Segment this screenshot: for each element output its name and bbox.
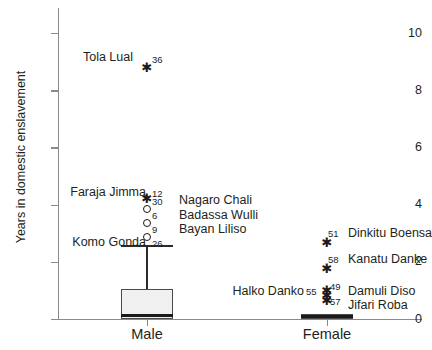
outlier-marker-30[interactable]: ✱ [142, 193, 153, 204]
outlier-marker-36[interactable]: ✱ [142, 62, 153, 73]
outlier-name-damuli-diso: Damuli Diso [348, 285, 415, 298]
outlier-name-bayan-liliso: Bayan Liliso [179, 223, 246, 236]
outlier-marker-9[interactable] [143, 219, 151, 227]
outlier-id-26: 26 [152, 239, 163, 249]
x-axis-line [58, 319, 422, 320]
y-tick-6 [51, 147, 58, 148]
outlier-id-55: 55 [306, 287, 317, 297]
outlier-id-51: 51 [328, 229, 339, 239]
y-tick-0 [51, 319, 58, 320]
y-tick-label-8: 8 [374, 84, 422, 97]
outlier-name-dinkitu-boensa: Dinkitu Boensa [348, 227, 432, 240]
outlier-id-6: 6 [152, 211, 157, 221]
y-tick-4 [51, 205, 58, 206]
outlier-name-nagaro-chali: Nagaro Chali [179, 194, 252, 207]
outlier-name-kanatu-danke: Kanatu Danke [348, 253, 427, 266]
y-tick-label-4: 4 [374, 198, 422, 211]
outlier-id-57: 57 [330, 297, 341, 307]
x-tick-male [147, 319, 148, 326]
male-upper-whisker [146, 246, 148, 289]
outlier-id-9: 9 [152, 225, 157, 235]
x-category-label-female: Female [267, 326, 387, 342]
outlier-name-badassa-wulli: Badassa Wulli [179, 209, 258, 222]
outlier-id-49: 49 [330, 282, 341, 292]
y-axis-title: Years in domestic enslavement [14, 52, 28, 262]
y-tick-2 [51, 262, 58, 263]
y-tick-8 [51, 90, 58, 91]
outlier-id-30: 30 [152, 197, 163, 207]
x-tick-female [327, 319, 328, 326]
female-median-line [301, 315, 353, 318]
y-tick-label-10: 10 [374, 27, 422, 40]
male-median-line [121, 314, 173, 317]
outlier-name-faraja-jimma: Faraja Jimma [0, 186, 146, 199]
outlier-id-36: 36 [152, 55, 163, 65]
y-tick-label-0: 0 [374, 313, 422, 326]
outlier-id-58: 58 [328, 255, 339, 265]
outlier-name-komo-gonda: Komo Gonda [0, 236, 146, 249]
outlier-name-jifari-roba: Jifari Roba [348, 299, 408, 312]
outlier-name-halko-danko: Halko Danko [170, 285, 304, 298]
outlier-marker-6[interactable] [143, 205, 151, 213]
outlier-name-tola-lual: Tola Lual [0, 51, 133, 64]
y-tick-10 [51, 33, 58, 34]
x-category-label-male: Male [87, 326, 207, 342]
y-tick-label-6: 6 [374, 141, 422, 154]
